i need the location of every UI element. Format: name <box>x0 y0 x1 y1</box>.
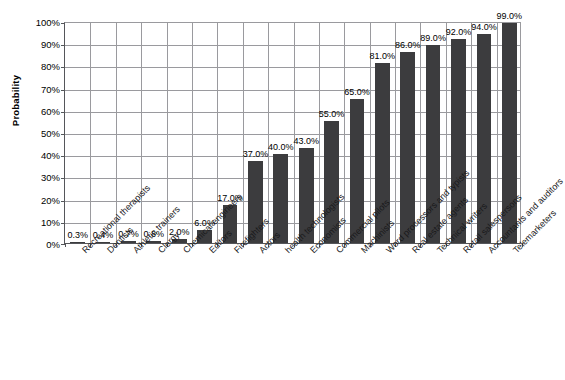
bar-slot: 86.0% <box>395 23 420 243</box>
y-tick-label: 90% <box>24 40 60 49</box>
bar-value-label: 92.0% <box>446 28 472 37</box>
bar-slot: 0.4% <box>90 23 115 243</box>
bar-slot: 43.0% <box>294 23 319 243</box>
bar-slot: 0.8% <box>141 23 166 243</box>
y-tick-label: 60% <box>24 106 60 115</box>
bar[interactable] <box>400 52 415 243</box>
y-tick-label: 50% <box>24 129 60 138</box>
y-tick-label: 70% <box>24 84 60 93</box>
bar-value-label: 65.0% <box>344 88 370 97</box>
bar-slot: 37.0% <box>243 23 268 243</box>
bar-slot: 0.3% <box>65 23 90 243</box>
bar-value-label: 99.0% <box>497 12 523 21</box>
bar-slot: 6.0% <box>192 23 217 243</box>
y-tick-label: 30% <box>24 173 60 182</box>
y-tick-label: 10% <box>24 217 60 226</box>
y-axis-tick-labels: 100%90%80%70%60%50%40%30%20%10%0% <box>24 22 60 244</box>
y-tick-label: 40% <box>24 151 60 160</box>
x-axis-category-labels: Recreational therapistsDentistsAthletic … <box>64 248 521 378</box>
y-tick-label: 80% <box>24 62 60 71</box>
bar-value-label: 40.0% <box>268 143 294 152</box>
bar-value-label: 89.0% <box>420 34 446 43</box>
bar-slot: 65.0% <box>344 23 369 243</box>
bar-value-label: 94.0% <box>471 23 497 32</box>
bar-value-label: 55.0% <box>319 110 345 119</box>
bar-slot: 40.0% <box>268 23 293 243</box>
y-tick-label: 100% <box>24 18 60 27</box>
bar-value-label: 0.3% <box>67 231 88 240</box>
bar-value-label: 43.0% <box>293 137 319 146</box>
bar-value-label: 37.0% <box>243 150 269 159</box>
bar-value-label: 86.0% <box>395 41 421 50</box>
y-axis-title: Probability <box>10 41 21 161</box>
y-tick-label: 0% <box>24 240 60 249</box>
y-tick-label: 20% <box>24 195 60 204</box>
bar[interactable] <box>70 242 85 243</box>
bar-value-label: 81.0% <box>370 52 396 61</box>
x-tick-mark <box>65 243 66 247</box>
